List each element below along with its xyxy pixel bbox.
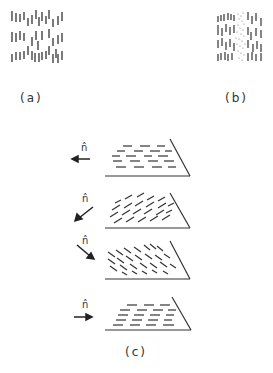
n-hat-symbol-1: n̂ [81, 142, 87, 153]
plane-1 [105, 139, 190, 176]
plane-4 [105, 297, 191, 330]
panel-b-texture [218, 12, 261, 61]
arrow-down-left [75, 207, 93, 221]
arrow-right [74, 314, 92, 320]
n-hat-symbol-3: n̂ [82, 235, 88, 246]
panel-c-label: (c) [125, 345, 147, 359]
panel-a-label: (a) [20, 91, 43, 105]
figure-canvas [0, 0, 273, 373]
n-hat-symbol-2: n̂ [82, 193, 88, 204]
panel-b-label: (b) [225, 91, 248, 105]
panel-a-texture [12, 10, 62, 63]
arrow-left [72, 156, 90, 162]
plane-2 [105, 193, 190, 228]
plane-3 [105, 241, 190, 279]
arrow-down-right [77, 245, 94, 259]
n-hat-symbol-4: n̂ [82, 299, 88, 310]
panel-b-dotted-strip [235, 12, 245, 60]
